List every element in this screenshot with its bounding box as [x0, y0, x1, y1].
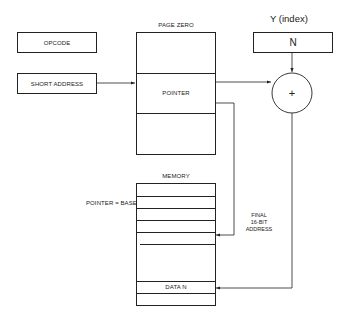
pointer-label: POINTER [137, 90, 215, 96]
memory-row-divider [137, 208, 215, 209]
plus-icon: + [289, 87, 295, 99]
memory-row-divider [137, 281, 215, 282]
page-zero-block: POINTER [136, 32, 216, 155]
opcode-label: OPCODE [44, 40, 71, 46]
page-zero-divider [137, 73, 215, 74]
data-n-label: DATA N [137, 284, 215, 290]
memory-block: DATA N [136, 183, 216, 306]
final-address-line1: FINAL [244, 212, 274, 219]
final-address-line2: 16-BIT [244, 219, 274, 226]
index-register-box: N [253, 32, 333, 53]
adder: + [272, 73, 312, 113]
final-address-label: FINAL 16-BIT ADDRESS [244, 212, 274, 233]
short-address-box: SHORT ADDRESS [17, 73, 97, 94]
memory-title: MEMORY [136, 173, 216, 179]
opcode-box: OPCODE [17, 32, 97, 53]
memory-row-divider [140, 244, 215, 245]
memory-row-divider [137, 293, 215, 294]
index-register-title: Y (index) [270, 13, 308, 24]
index-value: N [289, 37, 296, 48]
memory-row-divider [137, 196, 215, 197]
memory-row-divider [137, 220, 215, 221]
page-zero-title: PAGE ZERO [136, 22, 216, 28]
memory-row-divider [137, 232, 215, 233]
pointer-base-label: POINTER = BASE [86, 200, 137, 206]
short-address-label: SHORT ADDRESS [31, 81, 83, 87]
final-address-line3: ADDRESS [244, 226, 274, 233]
page-zero-divider [137, 113, 215, 114]
